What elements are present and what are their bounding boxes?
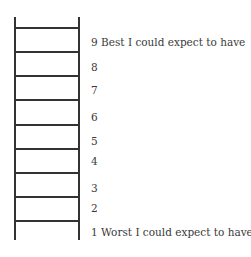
ladder-rung [14, 99, 80, 101]
ladder-rung [14, 148, 80, 150]
step-label-3: 3 [91, 182, 98, 194]
step-label-7: 7 [91, 84, 98, 96]
step-label-5: 5 [91, 135, 98, 147]
ladder-rung [14, 196, 80, 198]
step-label-9: 9 Best I could expect to have [91, 36, 245, 48]
step-label-4: 4 [91, 155, 98, 167]
ladder-rung [14, 172, 80, 174]
step-label-6: 6 [91, 111, 98, 123]
ladder-rung [14, 75, 80, 77]
ladder-rung [14, 220, 80, 222]
step-label-2: 2 [91, 202, 98, 214]
ladder-rung [14, 124, 80, 126]
ladder-rung [14, 51, 80, 53]
step-label-1: 1 Worst I could expect to have [91, 226, 251, 238]
ladder-rung [14, 27, 80, 29]
step-label-8: 8 [91, 61, 98, 73]
